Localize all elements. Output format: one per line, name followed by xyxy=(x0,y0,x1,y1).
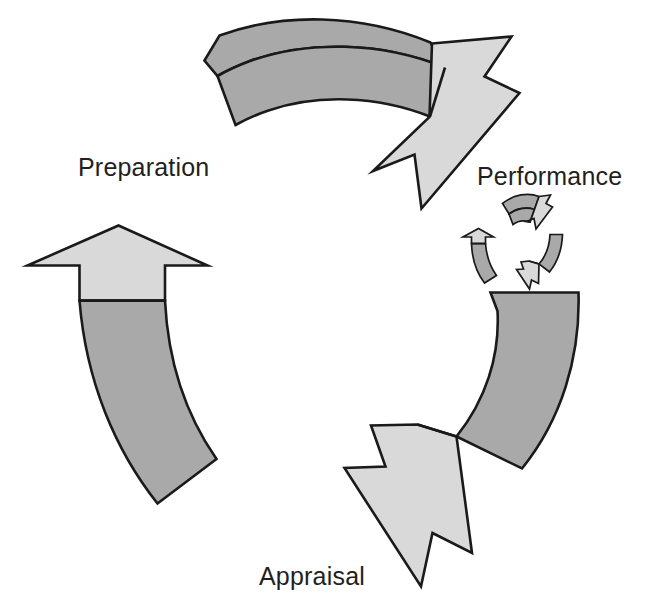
label-appraisal: Appraisal xyxy=(259,562,365,590)
label-performance: Performance xyxy=(477,162,622,190)
performance-management-cycle-diagram: Preparation Performance Appraisal xyxy=(0,0,649,609)
label-preparation: Preparation xyxy=(78,153,209,181)
